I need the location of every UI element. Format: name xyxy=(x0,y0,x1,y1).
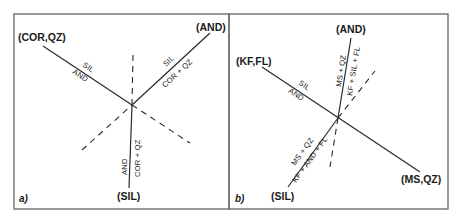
reaction-label-top-right: KF + SIL + FL xyxy=(345,46,362,96)
panel-label-a: a) xyxy=(19,193,29,204)
endpoint-label-sil: (SIL) xyxy=(271,190,294,202)
panel-b: (KF,FL) (AND) (SIL) (MS,QZ) SIL AND MS +… xyxy=(235,23,441,204)
endpoint-label-kf-fl: (KF,FL) xyxy=(236,55,272,67)
panel-a-frame xyxy=(14,14,229,209)
endpoint-label-and: (AND) xyxy=(196,21,226,33)
metastable-extension-cor-qz xyxy=(132,105,190,143)
reaction-label-bottom-left: AND xyxy=(120,158,129,175)
reaction-line-sil xyxy=(129,105,132,188)
endpoint-label-ms-qz: (MS,QZ) xyxy=(401,173,441,185)
phase-diagram-figure: (COR,QZ) (AND) (SIL) SIL AND SIL COR + Q… xyxy=(0,0,460,218)
endpoint-label-and: (AND) xyxy=(336,23,366,35)
metastable-extension-and xyxy=(330,118,338,167)
reaction-label-bottom-right: COR + QZ xyxy=(133,139,142,177)
panel-a: (COR,QZ) (AND) (SIL) SIL AND SIL COR + Q… xyxy=(18,21,226,204)
panel-label-b: b) xyxy=(235,193,245,204)
endpoint-label-cor-qz: (COR,QZ) xyxy=(18,31,66,43)
metastable-extension-and xyxy=(82,105,132,150)
metastable-extension-sil xyxy=(132,55,133,105)
endpoint-label-sil: (SIL) xyxy=(117,190,140,202)
reaction-line-and xyxy=(132,33,210,105)
